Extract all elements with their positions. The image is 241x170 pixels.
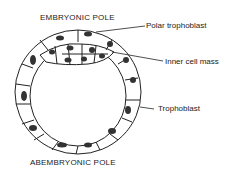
embryonic-pole-label: EMBRYONIC POLE <box>40 13 115 22</box>
trophoblast-leader <box>140 107 154 109</box>
inner-cell-mass-leader <box>112 52 163 61</box>
polar-trophoblast-label: Polar trophoblast <box>146 21 207 30</box>
diagram-canvas: EMBRYONIC POLE Polar trophoblast Inner c… <box>0 0 241 170</box>
abembryonic-pole-label: ABEMBRYONIC POLE <box>30 158 116 167</box>
polar-trophoblast-leader <box>96 26 145 32</box>
trophoblast-label: Trophoblast <box>158 104 201 113</box>
blastocyst-diagram: EMBRYONIC POLE Polar trophoblast Inner c… <box>0 0 241 170</box>
inner-cell-mass-label: Inner cell mass <box>165 57 219 66</box>
